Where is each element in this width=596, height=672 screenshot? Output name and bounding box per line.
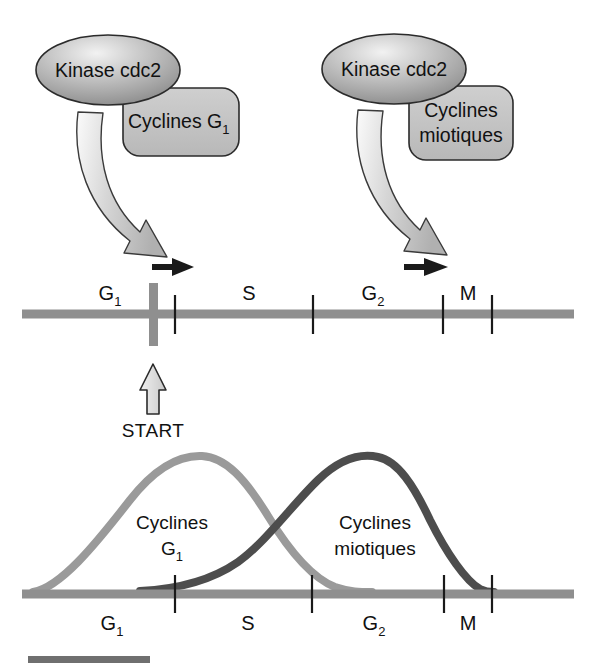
graph-phase-label-s: S	[241, 612, 254, 634]
graph-phase-label-m: M	[460, 612, 477, 634]
transition-arrow-g2-m	[404, 258, 448, 276]
mitotic-complex: Cyclines miotiques Kinase cdc2	[322, 34, 513, 255]
curve-label-g1-line2: G1	[161, 538, 183, 564]
start-marker-bar	[149, 283, 158, 346]
timeline-phase-label-m: M	[460, 282, 477, 304]
cell-cycle-cyclin-figure: Cyclines G1 Kinase cdc2 Cyclines miotiqu…	[0, 0, 596, 672]
cell-cycle-timeline: G1 S G2 M START	[22, 258, 574, 441]
curve-label-mitotic-line1: Cyclines	[339, 512, 411, 533]
kinase-cdc2-label-g1: Kinase cdc2	[55, 59, 161, 81]
start-label: START	[122, 420, 185, 441]
transition-arrow-g1-s	[152, 258, 194, 276]
cyclin-mitotic-box-label-line1: Cyclines	[424, 99, 498, 121]
timeline-phase-label-g1: G1	[99, 282, 122, 309]
g1-complex: Cyclines G1 Kinase cdc2	[36, 35, 239, 257]
start-arrow-icon	[140, 364, 166, 414]
cyclin-mitotic-box-label-line2: miotiques	[419, 124, 503, 146]
curve-label-mitotic-line2: miotiques	[334, 538, 415, 559]
graph-phase-label-g2: G2	[363, 612, 386, 639]
scale-bar	[28, 656, 150, 663]
curve-label-g1-line1: Cyclines	[136, 512, 208, 533]
timeline-phase-label-s: S	[242, 282, 255, 304]
timeline-phase-label-g2: G2	[362, 282, 385, 309]
kinase-cdc2-label-mitotic: Kinase cdc2	[341, 58, 447, 80]
cyclin-concentration-graph: Cyclines G1 Cyclines miotiques G1 S G2 M	[22, 456, 574, 639]
graph-phase-label-g1: G1	[101, 612, 124, 639]
